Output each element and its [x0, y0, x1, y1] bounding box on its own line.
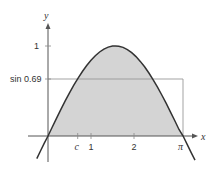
sine-area-chart: y x 1 sin 0.69 c 1 2 π: [0, 0, 215, 169]
shaded-area: [48, 46, 183, 136]
x-tick-label-1: 1: [89, 142, 94, 152]
x-axis-arrow-icon: [192, 134, 198, 139]
y-tick-label-sin: sin 0.69: [10, 74, 42, 84]
x-tick-label-c: c: [75, 141, 80, 152]
y-axis-arrow-icon: [46, 23, 51, 29]
x-axis-label: x: [200, 131, 206, 142]
x-tick-label-pi: π: [178, 141, 184, 152]
x-tick-label-2: 2: [132, 142, 137, 152]
y-tick-label-1: 1: [34, 41, 39, 51]
y-axis-label: y: [43, 10, 49, 21]
